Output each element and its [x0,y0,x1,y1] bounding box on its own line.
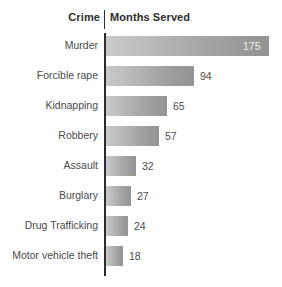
category-label: Murder [65,39,98,52]
bar-value-label: 94 [200,70,212,82]
bar-value-label: 18 [129,250,141,262]
bar-row: Motor vehicle theft18 [0,246,282,266]
bar-row: Murder175 [0,36,282,56]
bar-value-label: 24 [134,220,146,232]
bar [106,66,194,86]
category-label: Burglary [59,189,98,202]
bar-row: Assault32 [0,156,282,176]
bar-row: Forcible rape94 [0,66,282,86]
bar-value-label: 65 [173,100,185,112]
category-label: Kidnapping [45,99,98,112]
bar [106,126,159,146]
bar [106,246,123,266]
bar-row: Kidnapping65 [0,96,282,116]
bar-row: Robbery57 [0,126,282,146]
bar-row: Drug Trafficking24 [0,216,282,236]
bar [106,156,136,176]
bar [106,216,128,236]
category-label: Drug Trafficking [25,219,98,232]
bar-row: Burglary27 [0,186,282,206]
bar-chart: Crime Months Served Murder175Forcible ra… [0,0,282,287]
bar [106,186,131,206]
category-label: Assault [64,159,98,172]
plot-area: Murder175Forcible rape94Kidnapping65Robb… [0,36,282,276]
bar-value-label: 32 [142,160,154,172]
chart-header: Crime Months Served [0,11,282,31]
bar [106,96,167,116]
category-label: Motor vehicle theft [12,249,98,262]
bar-value-label: 175 [243,40,261,52]
category-label: Robbery [58,129,98,142]
category-label: Forcible rape [37,69,98,82]
bar-value-label: 57 [165,130,177,142]
column-header-crime: Crime [68,11,100,23]
bar-value-label: 27 [137,190,149,202]
header-divider [104,10,105,29]
column-header-months-served: Months Served [110,11,190,23]
